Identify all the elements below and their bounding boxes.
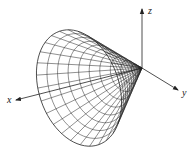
- y-axis-label: y: [182, 88, 186, 98]
- cone-ring: [79, 45, 130, 115]
- cone-wireframe-diagram: [0, 0, 193, 152]
- cone-generator-line: [80, 68, 142, 145]
- cone-figure: x y z: [0, 0, 193, 152]
- cone-mesh: [36, 30, 142, 146]
- cone-generator-line: [90, 68, 142, 146]
- x-axis: [16, 68, 142, 100]
- cone-generator-line: [99, 68, 142, 145]
- y-axis: [142, 68, 178, 90]
- cone-ring: [47, 34, 124, 139]
- x-axis-label: x: [7, 95, 11, 105]
- cone-generator-line: [52, 36, 142, 68]
- z-axis-label: z: [148, 6, 152, 16]
